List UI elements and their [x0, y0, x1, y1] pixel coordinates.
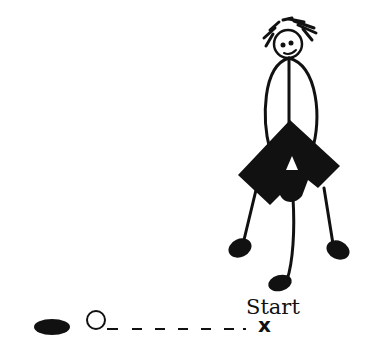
- right-leg-line: [324, 188, 333, 244]
- disc-icon: [34, 319, 70, 335]
- eye-right-icon: [289, 41, 294, 46]
- middle-leg-line: [287, 198, 294, 280]
- left-leg-line: [243, 190, 256, 244]
- start-marker: x: [258, 314, 271, 336]
- diagram-canvas: [0, 0, 382, 363]
- left-foot-icon: [225, 235, 254, 261]
- ball-icon: [87, 311, 105, 329]
- start-label: Start: [246, 295, 300, 319]
- mouth-icon: [284, 50, 296, 54]
- right-foot-icon: [323, 237, 352, 263]
- eye-left-icon: [281, 43, 286, 48]
- stick-figure: [225, 18, 352, 294]
